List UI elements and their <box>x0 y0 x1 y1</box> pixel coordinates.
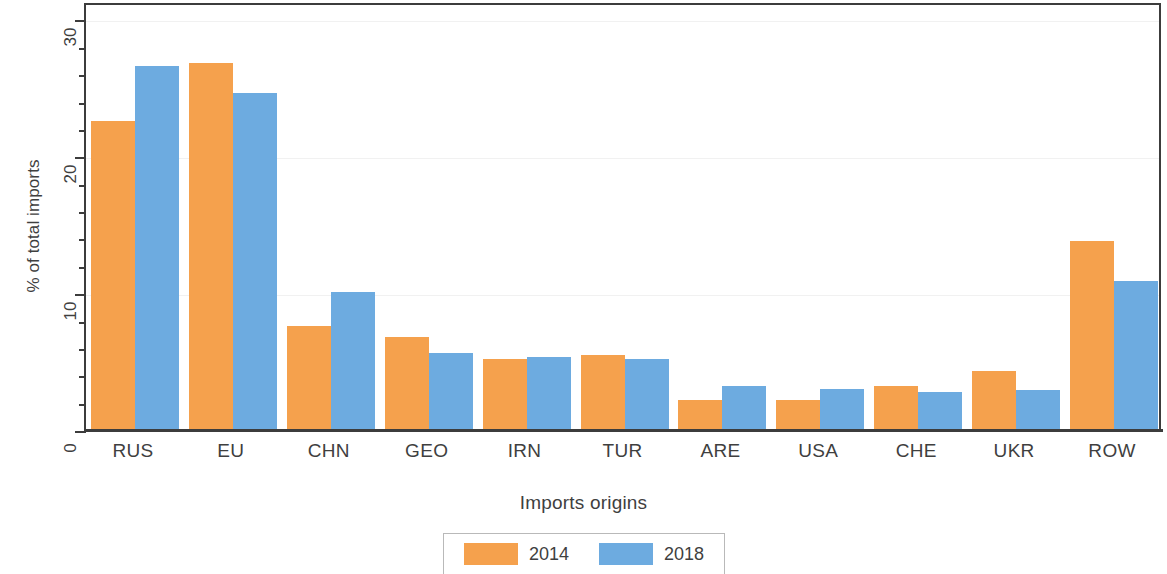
bar-row-2014 <box>1070 241 1114 430</box>
chart-legend: 2014 2018 <box>443 533 725 574</box>
bar-usa-2014 <box>776 400 820 430</box>
y-axis-minor-tick <box>79 267 86 269</box>
legend-label-2018: 2018 <box>664 544 704 565</box>
x-axis-tick-label-row: ROW <box>1063 440 1161 462</box>
x-axis-tick-label-ukr: UKR <box>965 440 1063 462</box>
y-axis-minor-tick <box>79 404 86 406</box>
y-axis-minor-tick <box>79 103 86 105</box>
x-axis-tick-label-tur: TUR <box>574 440 672 462</box>
y-axis-minor-tick <box>79 48 86 50</box>
y-axis-tick-label: 10 <box>61 294 81 328</box>
y-axis-minor-tick <box>79 349 86 351</box>
bar-ukr-2014 <box>972 371 1016 430</box>
y-axis-tick-label: 0 <box>61 431 81 465</box>
bar-tur-2014 <box>581 355 625 430</box>
y-axis-title: % of total imports <box>24 96 44 356</box>
bar-eu-2014 <box>189 63 233 430</box>
legend-entry-2018: 2018 <box>599 543 704 565</box>
bar-rus-2018 <box>135 66 179 430</box>
y-axis-minor-tick <box>79 75 86 77</box>
x-axis-tick-label-eu: EU <box>182 440 280 462</box>
bar-che-2018 <box>918 392 962 430</box>
y-axis-minor-tick <box>79 130 86 132</box>
x-axis-tick-label-are: ARE <box>671 440 769 462</box>
bar-rus-2014 <box>91 121 135 430</box>
bar-usa-2018 <box>820 389 864 430</box>
bar-eu-2018 <box>233 93 277 430</box>
bar-chn-2014 <box>287 326 331 430</box>
y-axis-minor-tick <box>79 376 86 378</box>
bar-chart-figure: % of total imports 0102030 Imports origi… <box>0 0 1167 574</box>
x-axis-tick-label-chn: CHN <box>280 440 378 462</box>
x-axis-tick-label-irn: IRN <box>476 440 574 462</box>
y-axis-tick-label: 20 <box>61 157 81 191</box>
bar-che-2014 <box>874 386 918 430</box>
x-axis-tick-label-che: CHE <box>867 440 965 462</box>
x-axis-line <box>84 429 1163 432</box>
legend-swatch-2018 <box>599 543 653 565</box>
y-axis-minor-tick <box>79 322 86 324</box>
bar-tur-2018 <box>625 359 669 430</box>
gridline <box>86 21 1159 22</box>
y-axis-minor-tick <box>79 185 86 187</box>
bar-chn-2018 <box>331 292 375 430</box>
legend-label-2014: 2014 <box>529 544 569 565</box>
y-axis-minor-tick <box>79 239 86 241</box>
bar-ukr-2018 <box>1016 390 1060 430</box>
y-axis-tick-label: 30 <box>61 20 81 54</box>
bar-are-2014 <box>678 400 722 430</box>
bar-are-2018 <box>722 386 766 430</box>
legend-swatch-2014 <box>464 543 518 565</box>
bar-geo-2018 <box>429 353 473 430</box>
plot-area: 0102030 <box>84 3 1161 430</box>
legend-entry-2014: 2014 <box>464 543 569 565</box>
bar-geo-2014 <box>385 337 429 430</box>
x-axis-tick-label-usa: USA <box>769 440 867 462</box>
x-axis-title: Imports origins <box>0 492 1167 514</box>
bar-irn-2014 <box>483 359 527 430</box>
bar-irn-2018 <box>527 357 571 430</box>
bar-row-2018 <box>1114 281 1158 430</box>
x-axis-tick-label-geo: GEO <box>378 440 476 462</box>
y-axis-minor-tick <box>79 212 86 214</box>
x-axis-tick-label-rus: RUS <box>84 440 182 462</box>
